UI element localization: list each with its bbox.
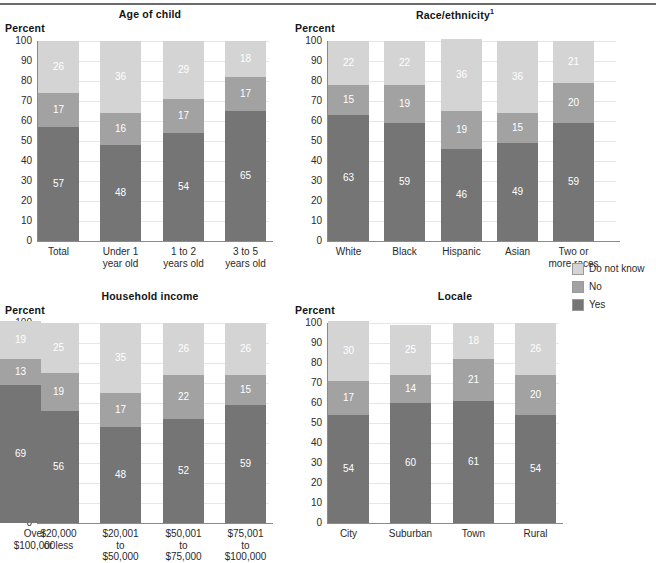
bar-segment-no[interactable]: 13 bbox=[0, 359, 41, 385]
bar-segment-do-not-know[interactable]: 30 bbox=[328, 321, 369, 381]
bar-segment-value: 21 bbox=[453, 375, 494, 385]
stacked-bar[interactable]: 541729 bbox=[163, 41, 204, 241]
bar-segment-no[interactable]: 22 bbox=[163, 375, 204, 419]
bar-segment-do-not-know[interactable]: 22 bbox=[384, 41, 425, 85]
bar-segment-do-not-know[interactable]: 36 bbox=[441, 39, 482, 111]
bar-segment-no[interactable]: 17 bbox=[100, 393, 141, 427]
bar-segment-do-not-know[interactable]: 36 bbox=[497, 41, 538, 113]
y-tick-label: 10 bbox=[10, 215, 32, 226]
x-category-label-line: to bbox=[149, 540, 218, 552]
y-tick-label: 50 bbox=[300, 135, 322, 146]
bar-segment-value: 59 bbox=[553, 177, 594, 187]
stacked-bar[interactable]: 651718 bbox=[225, 41, 266, 241]
bar-segment-do-not-know[interactable]: 26 bbox=[515, 323, 556, 375]
stacked-bar[interactable]: 541730 bbox=[328, 323, 369, 523]
bar-segment-value: 21 bbox=[553, 57, 594, 67]
bar-segment-no[interactable]: 17 bbox=[328, 381, 369, 415]
bar-segment-value: 54 bbox=[328, 464, 369, 474]
stacked-bar[interactable]: 601425 bbox=[390, 323, 431, 523]
bar-segment-do-not-know[interactable]: 26 bbox=[225, 323, 266, 375]
x-category-label-line: City bbox=[314, 528, 383, 540]
bar-segment-do-not-know[interactable]: 22 bbox=[328, 41, 369, 85]
y-tick-label: 0 bbox=[10, 235, 32, 246]
bar-segment-no[interactable]: 19 bbox=[384, 85, 425, 123]
bar-segment-do-not-know[interactable]: 25 bbox=[38, 323, 79, 373]
bar-segment-value: 13 bbox=[0, 367, 41, 377]
chart-title-footnote-marker: 1 bbox=[490, 8, 494, 15]
bar-segment-yes[interactable]: 46 bbox=[441, 149, 482, 241]
bar-segment-no[interactable]: 15 bbox=[497, 113, 538, 143]
bar-segment-yes[interactable]: 63 bbox=[328, 115, 369, 241]
bar-segment-value: 61 bbox=[453, 457, 494, 467]
stacked-bar[interactable]: 491536 bbox=[497, 41, 538, 241]
stacked-bar[interactable]: 592021 bbox=[553, 41, 594, 241]
bar-segment-value: 48 bbox=[100, 188, 141, 198]
bar-segment-no[interactable]: 15 bbox=[225, 375, 266, 405]
stacked-bar[interactable]: 522226 bbox=[163, 323, 204, 523]
bar-segment-value: 65 bbox=[225, 171, 266, 181]
stacked-bar[interactable]: 631522 bbox=[328, 41, 369, 241]
bar-segment-do-not-know[interactable]: 25 bbox=[390, 325, 431, 375]
stacked-bar[interactable]: 691319 bbox=[0, 323, 41, 523]
stacked-bar[interactable]: 571726 bbox=[38, 41, 79, 241]
bar-segment-do-not-know[interactable]: 26 bbox=[163, 323, 204, 375]
bar-segment-yes[interactable]: 49 bbox=[497, 143, 538, 241]
bar-segment-no[interactable]: 14 bbox=[390, 375, 431, 403]
x-axis-line bbox=[327, 241, 620, 242]
bar-segment-yes[interactable]: 65 bbox=[225, 111, 266, 241]
bar-segment-yes[interactable]: 57 bbox=[38, 127, 79, 241]
bar-segment-value: 56 bbox=[38, 462, 79, 472]
bar-segment-no[interactable]: 16 bbox=[100, 113, 141, 145]
stacked-bar[interactable]: 591526 bbox=[225, 323, 266, 523]
y-tick-label: 70 bbox=[10, 95, 32, 106]
bar-segment-yes[interactable]: 56 bbox=[38, 411, 79, 523]
bar-segment-no[interactable]: 17 bbox=[225, 77, 266, 111]
bar-segment-yes[interactable]: 54 bbox=[163, 133, 204, 241]
y-tick-label: 40 bbox=[300, 437, 322, 448]
stacked-bar[interactable]: 561925 bbox=[38, 323, 79, 523]
bar-segment-do-not-know[interactable]: 18 bbox=[453, 323, 494, 359]
bar-segment-no[interactable]: 17 bbox=[38, 93, 79, 127]
bar-segment-do-not-know[interactable]: 35 bbox=[100, 323, 141, 393]
bar-segment-yes[interactable]: 61 bbox=[453, 401, 494, 523]
bar-segment-yes[interactable]: 52 bbox=[163, 419, 204, 523]
bar-segment-do-not-know[interactable]: 21 bbox=[553, 41, 594, 83]
bar-segment-yes[interactable]: 54 bbox=[515, 415, 556, 523]
bar-segment-value: 36 bbox=[497, 72, 538, 82]
bar-segment-yes[interactable]: 59 bbox=[553, 123, 594, 241]
bar-segment-value: 30 bbox=[328, 346, 369, 356]
bar-segment-value: 36 bbox=[441, 70, 482, 80]
bar-segment-yes[interactable]: 48 bbox=[100, 145, 141, 241]
stacked-bar[interactable]: 612118 bbox=[453, 323, 494, 523]
bar-segment-yes[interactable]: 54 bbox=[328, 415, 369, 523]
bar-segment-value: 20 bbox=[553, 98, 594, 108]
bar-segment-yes[interactable]: 60 bbox=[390, 403, 431, 523]
bar-segment-value: 26 bbox=[515, 344, 556, 354]
stacked-bar[interactable]: 542026 bbox=[515, 323, 556, 523]
y-tick-label: 10 bbox=[300, 215, 322, 226]
bar-segment-no[interactable]: 20 bbox=[553, 83, 594, 123]
bar-segment-no[interactable]: 15 bbox=[328, 85, 369, 115]
x-category-label: Total bbox=[24, 246, 93, 258]
bar-segment-no[interactable]: 19 bbox=[38, 373, 79, 411]
bar-segment-do-not-know[interactable]: 36 bbox=[100, 41, 141, 113]
bar-segment-yes[interactable]: 69 bbox=[0, 385, 41, 523]
bar-segment-no[interactable]: 21 bbox=[453, 359, 494, 401]
stacked-bar[interactable]: 591922 bbox=[384, 41, 425, 241]
bar-segment-do-not-know[interactable]: 19 bbox=[0, 321, 41, 359]
stacked-bar[interactable]: 481636 bbox=[100, 41, 141, 241]
bar-segment-yes[interactable]: 59 bbox=[384, 123, 425, 241]
bar-segment-value: 52 bbox=[163, 466, 204, 476]
bar-segment-no[interactable]: 20 bbox=[515, 375, 556, 415]
stacked-bar[interactable]: 461936 bbox=[441, 41, 482, 241]
bar-segment-no[interactable]: 17 bbox=[163, 99, 204, 133]
stacked-bar[interactable]: 481735 bbox=[100, 323, 141, 523]
bar-segment-value: 54 bbox=[163, 182, 204, 192]
bar-segment-yes[interactable]: 59 bbox=[225, 405, 266, 523]
bar-segment-yes[interactable]: 48 bbox=[100, 427, 141, 523]
bar-segment-do-not-know[interactable]: 29 bbox=[163, 41, 204, 99]
bar-segment-do-not-know[interactable]: 18 bbox=[225, 41, 266, 77]
y-tick-label: 50 bbox=[300, 417, 322, 428]
bar-segment-do-not-know[interactable]: 26 bbox=[38, 41, 79, 93]
bar-segment-no[interactable]: 19 bbox=[441, 111, 482, 149]
